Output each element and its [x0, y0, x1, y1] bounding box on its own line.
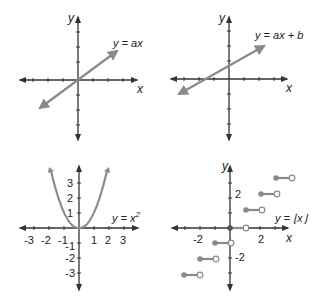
- equation-label: y = ax: [112, 37, 143, 49]
- x-tick-labels: -3 -2 -1 1 2 3: [24, 234, 126, 246]
- svg-text:-2: -2: [41, 234, 51, 246]
- svg-text:3: 3: [120, 234, 126, 246]
- x-axis-label: x: [285, 81, 293, 95]
- y-tick-label-2: 2: [235, 188, 241, 200]
- panel-floor: y x -2 2 2 -2 y = ⌊x⌋: [172, 159, 309, 290]
- svg-text:2: 2: [67, 192, 73, 204]
- svg-text:1: 1: [91, 234, 97, 246]
- y-axis-label: y: [67, 11, 75, 25]
- svg-text:-1: -1: [65, 240, 75, 252]
- y-axis-label: y: [218, 11, 226, 25]
- line-y-equals-ax-plus-b: [179, 46, 264, 94]
- y-tick-label-neg2: -2: [235, 251, 245, 263]
- y-axis-label: y: [221, 159, 229, 173]
- svg-text:-3: -3: [24, 234, 34, 246]
- svg-text:1: 1: [67, 207, 73, 219]
- function-graphs-figure: y x y = ax y x y = ax + b: [0, 0, 320, 302]
- panel-quadratic: -3 -2 -1 1 2 3 3 2 1 -1 -2 -3 y = x2: [20, 166, 141, 290]
- equation-label: y = ax + b: [254, 29, 303, 41]
- panel-affine: y x y = ax + b: [171, 11, 303, 140]
- x-tick-label-2: 2: [258, 233, 264, 245]
- svg-text:2: 2: [105, 234, 111, 246]
- equation-label: y = ⌊x⌋: [274, 212, 309, 224]
- x-axis-label: x: [285, 231, 293, 245]
- x-axis-label: x: [136, 82, 144, 96]
- panel-linear: y x y = ax: [20, 11, 144, 140]
- svg-text:3: 3: [67, 177, 73, 189]
- equation-label: y = x2: [111, 210, 141, 224]
- svg-text:-2: -2: [65, 252, 75, 264]
- svg-text:-3: -3: [65, 267, 75, 279]
- x-tick-label-neg2: -2: [193, 233, 203, 245]
